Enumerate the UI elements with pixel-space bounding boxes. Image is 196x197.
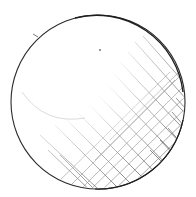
shading-hatching: [40, 28, 196, 197]
terminator-arc: [22, 92, 85, 119]
sphere-sketch: [0, 0, 196, 197]
stray-stroke: [33, 34, 38, 37]
highlight-dot: [99, 49, 101, 51]
sketch-canvas: [0, 0, 196, 197]
